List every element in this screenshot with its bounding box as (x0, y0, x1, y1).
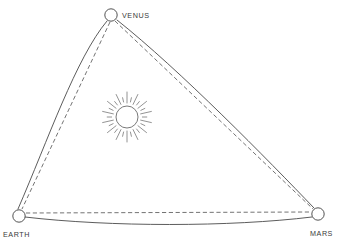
sun-ray (133, 94, 138, 104)
edge-venus-mars (115, 20, 314, 209)
venus-circle[interactable] (105, 9, 117, 21)
sun-ray (107, 101, 116, 108)
earth-label: EARTH (3, 230, 30, 239)
edge-venus-mars-dashed-path (115, 21, 313, 209)
sun-ray (130, 132, 131, 136)
sun-ray (107, 126, 116, 133)
mars-circle[interactable] (312, 208, 324, 220)
edge-venus-mars-solid-path (117, 20, 314, 208)
sun-ray (115, 129, 118, 132)
sun-ray (137, 129, 140, 132)
sun-ray (115, 102, 118, 105)
sun-ray (123, 132, 124, 136)
planetary-triangle-diagram: VENUS EARTH MARS (0, 0, 342, 249)
sun-ray (141, 108, 145, 110)
edge-earth-mars-dashed-path (26, 212, 311, 213)
sun-ray (116, 130, 121, 140)
sun-ray (141, 124, 145, 126)
sun-ray (138, 101, 147, 108)
diagram-canvas: VENUS EARTH MARS (0, 0, 342, 249)
sun-ray (130, 98, 131, 102)
sun-ray (141, 120, 152, 122)
edge-earth-mars (25, 212, 312, 225)
planet-node-earth[interactable]: EARTH (3, 210, 30, 239)
sun-ray (137, 102, 140, 105)
venus-label: VENUS (122, 11, 150, 20)
edge-venus-earth-solid-path (18, 21, 107, 209)
sun-ray (141, 111, 152, 113)
sun-ray (109, 124, 113, 126)
sun-ray (138, 126, 147, 133)
sun-ray (103, 111, 114, 113)
sun-ray (116, 94, 121, 104)
edge-earth-mars-solid-path (25, 217, 312, 225)
edge-venus-earth (18, 21, 110, 209)
sun-ray (133, 130, 138, 140)
sun-ray (109, 108, 113, 110)
earth-circle[interactable] (13, 210, 25, 222)
sun-ray (103, 120, 114, 122)
mars-label: MARS (310, 229, 333, 238)
sun-core-circle (116, 106, 138, 128)
edge-venus-earth-dashed-path (22, 22, 110, 209)
sun-ray (123, 98, 124, 102)
sun-icon (103, 92, 152, 142)
planet-node-mars[interactable]: MARS (310, 208, 333, 238)
planet-node-venus[interactable]: VENUS (105, 9, 150, 21)
